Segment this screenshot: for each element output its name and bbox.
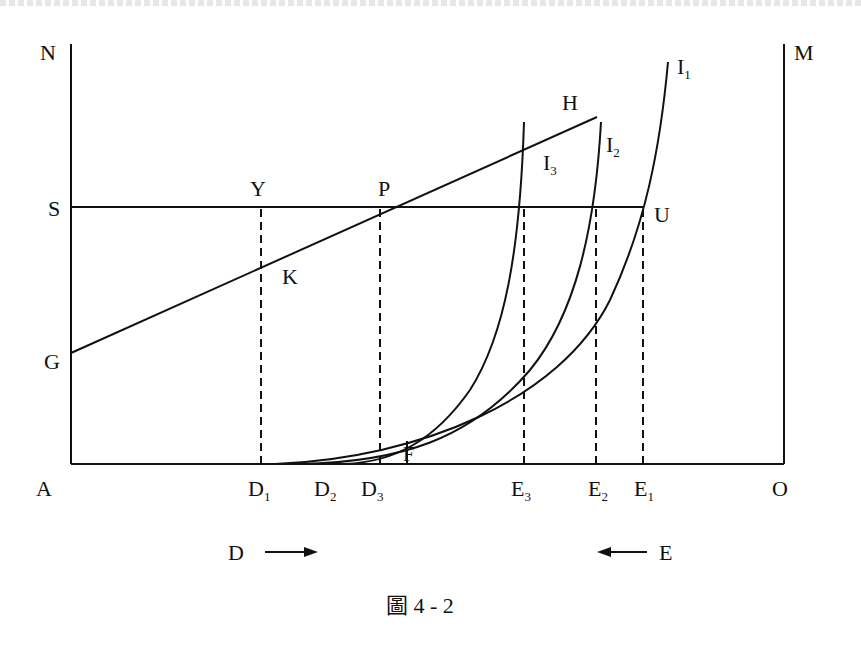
label-arrow-D: D [228,540,244,565]
label-Y: Y [250,176,266,201]
label-S: S [48,196,60,221]
label-E2: E2 [588,476,608,504]
arrow-right-icon [265,547,318,557]
label-G: G [44,349,60,374]
line-GH [71,117,597,353]
label-U: U [654,202,670,227]
economic-diagram: N M A O S G Y K P H U F I1 I2 I3 D1 D2 D… [0,0,861,652]
label-K: K [282,264,298,289]
label-D1: D1 [248,476,270,504]
label-F: F [403,443,414,465]
figure-caption: 圖 4 - 2 [386,593,454,618]
label-O: O [772,476,788,501]
label-N: N [40,40,56,65]
label-I3: I3 [543,150,557,178]
label-I2: I2 [606,132,620,160]
label-I1: I1 [677,54,691,82]
label-D2: D2 [314,476,336,504]
arrow-left-icon [597,547,647,557]
label-E3: E3 [511,476,531,504]
label-M: M [794,40,814,65]
label-A: A [36,476,52,501]
label-P: P [378,176,390,201]
curve-I1 [275,62,668,464]
label-E1: E1 [634,476,654,504]
label-H: H [562,90,578,115]
label-arrow-E: E [659,540,672,565]
label-D3: D3 [361,476,383,504]
curve-I3 [345,122,524,464]
